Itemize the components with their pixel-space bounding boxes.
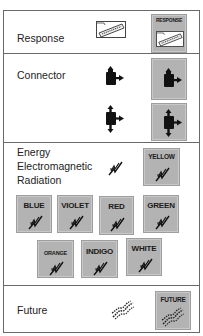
connector-up-down-right-icon	[161, 109, 183, 137]
wave-zigzag-icon	[138, 257, 154, 273]
wave-zigzag-icon	[69, 214, 85, 230]
tile-white[interactable]: WHITE	[126, 238, 162, 276]
tile-violet[interactable]: VIOLET	[57, 195, 93, 233]
section-divider	[3, 285, 200, 286]
tile-indigo[interactable]: INDIGO	[81, 240, 118, 278]
tile-caption: FUTURE	[156, 296, 190, 303]
section-divider	[3, 142, 200, 143]
tile-blue[interactable]: BLUE	[16, 195, 52, 233]
tile-caption: VIOLET	[58, 201, 92, 210]
section-divider	[3, 53, 200, 54]
tile-caption: INDIGO	[82, 247, 117, 256]
future-wave-icon	[111, 300, 135, 320]
tile-orange[interactable]: ORANGE	[37, 240, 74, 278]
tile-connector-up-down-right[interactable]	[151, 103, 187, 141]
section-label-energy-line1: Energy	[17, 145, 50, 160]
wave-zigzag-icon	[155, 214, 171, 230]
tile-future[interactable]: FUTURE	[155, 291, 191, 330]
response-envelope-icon	[156, 30, 184, 48]
wave-zigzag-icon	[49, 260, 65, 276]
section-label-response: Response	[17, 31, 64, 46]
wave-zigzag-icon	[110, 216, 126, 232]
section-label-energy-line3: Radiation	[17, 173, 61, 188]
wave-zigzag-icon	[155, 166, 171, 182]
connector-right-icon	[103, 66, 125, 88]
tile-connector-right[interactable]	[151, 58, 187, 100]
wave-zigzag-icon	[28, 214, 44, 230]
tile-caption: ORANGE	[38, 250, 73, 256]
wave-zigzag-icon	[93, 260, 109, 276]
tile-caption: BLUE	[17, 201, 51, 210]
tile-caption: WHITE	[127, 244, 161, 253]
wave-zigzag-icon	[108, 160, 124, 176]
tile-yellow[interactable]: YELLOW	[143, 148, 180, 186]
tile-caption: RED	[100, 202, 133, 211]
connector-up-down-right-icon	[103, 105, 125, 133]
section-label-future: Future	[17, 303, 47, 318]
tile-response[interactable]: RESPONSE	[151, 14, 187, 53]
tile-caption: YELLOW	[144, 153, 179, 160]
response-envelope-icon	[96, 21, 126, 38]
future-wave-icon	[161, 307, 185, 327]
tile-green[interactable]: GREEN	[143, 195, 179, 233]
section-label-connector: Connector	[17, 68, 65, 83]
section-label-energy-line2: Electromagnetic	[17, 159, 92, 174]
tile-red[interactable]: RED	[99, 196, 134, 235]
connector-right-icon	[161, 68, 183, 90]
tile-caption: RESPONSE	[152, 17, 186, 23]
tile-caption: GREEN	[144, 201, 178, 210]
